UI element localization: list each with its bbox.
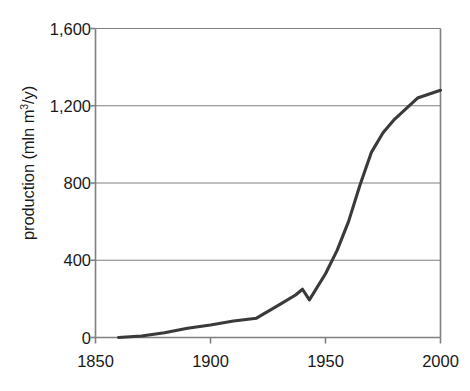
chart-figure: production (mln m3/y) 04008001,2001,6001… bbox=[0, 0, 470, 391]
plot-area bbox=[0, 0, 470, 391]
data-line-production bbox=[119, 90, 441, 337]
